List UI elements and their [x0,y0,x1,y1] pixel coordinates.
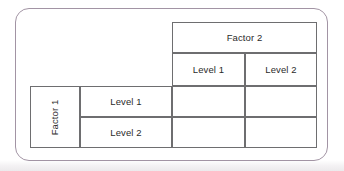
row-header-level-2-label: Level 2 [110,127,141,138]
column-header-level-2: Level 2 [245,53,317,86]
body-cell-r1c2 [245,86,317,117]
row-header-level-1-label: Level 1 [110,96,141,107]
body-cell-r1c1 [172,86,245,117]
row-header-level-1: Level 1 [80,86,172,117]
row-header-level-2: Level 2 [80,117,172,148]
column-factor-label: Factor 2 [227,32,263,43]
body-cell-r2c1 [172,117,245,148]
column-factor-header: Factor 2 [172,22,317,53]
diagram-canvas: Factor 2 Level 1 Level 2 Factor 1 Level … [0,0,344,171]
row-factor-header: Factor 1 [30,86,80,148]
row-factor-label: Factor 1 [50,99,61,135]
column-header-level-2-label: Level 2 [265,64,296,75]
body-cell-r2c2 [245,117,317,148]
page-shadow [0,160,344,171]
column-header-level-1-label: Level 1 [193,64,224,75]
column-header-level-1: Level 1 [172,53,245,86]
